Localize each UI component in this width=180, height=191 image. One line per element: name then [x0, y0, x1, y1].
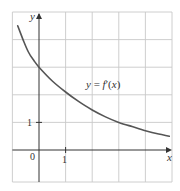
y-tick-label-1: 1 [27, 117, 32, 128]
derivative-graph: y x 0 1 1 y = f′(x) [0, 0, 180, 191]
grid-lines [12, 12, 172, 182]
curve-label: y = f′(x) [85, 78, 121, 91]
y-axis-label: y [29, 10, 35, 22]
origin-label: 0 [30, 151, 35, 162]
y-axis-arrow-icon [36, 13, 42, 19]
x-tick-label-1: 1 [62, 154, 67, 165]
x-axis-label: x [166, 151, 172, 163]
